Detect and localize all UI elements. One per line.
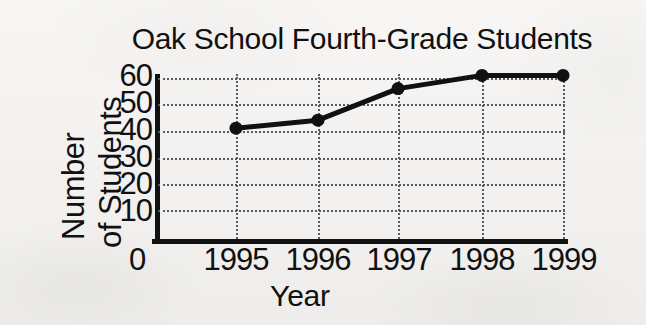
chart-page: Oak School Fourth-Grade Students Number … bbox=[0, 0, 646, 325]
data-point-1999 bbox=[557, 69, 570, 82]
data-point-1998 bbox=[476, 69, 489, 82]
x-axis-title: Year bbox=[155, 280, 445, 312]
x-tick-label-1999: 1999 bbox=[514, 243, 614, 276]
data-series-line bbox=[155, 74, 565, 239]
data-point-1997 bbox=[392, 82, 405, 95]
data-point-1995 bbox=[230, 122, 243, 135]
data-point-1996 bbox=[312, 114, 325, 127]
y-axis-title-line-1: Number bbox=[58, 133, 89, 240]
x-axis-tick-labels: 0 1995 1996 1997 1998 1999 bbox=[0, 243, 646, 283]
page-title: Oak School Fourth-Grade Students bbox=[92, 22, 632, 56]
x-tick-label-0: 0 bbox=[107, 243, 167, 276]
y-tick-label-10: 10 bbox=[96, 195, 152, 226]
plot-area bbox=[155, 74, 565, 239]
